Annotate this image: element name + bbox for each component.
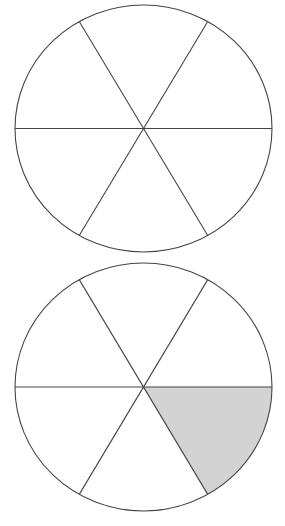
fraction-circles-diagram: [0, 0, 285, 526]
circle-top-sixths: [15, 5, 272, 252]
circle-bottom-one-sixth-shaded: [15, 263, 272, 511]
